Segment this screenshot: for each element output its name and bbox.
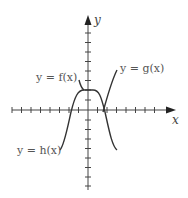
label-g: y = g(x): [119, 62, 164, 75]
curve-g: [103, 70, 117, 112]
label-h: y = h(x): [16, 144, 61, 157]
y-axis-arrow-icon: [85, 15, 92, 25]
y-axis-label: y: [93, 13, 101, 27]
label-f: y = f(x): [35, 71, 77, 84]
function-graph: y x y = f(x) y = g(x) y = h(x): [0, 0, 188, 198]
x-axis-label: x: [172, 113, 179, 127]
curve-f: [79, 80, 84, 90]
